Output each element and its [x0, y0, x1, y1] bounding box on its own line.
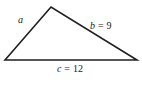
- side-label-b: b = 9: [90, 21, 112, 31]
- side-a-variable: a: [18, 14, 23, 25]
- triangle-outline: [5, 7, 137, 60]
- side-b-value: 9: [106, 20, 111, 31]
- side-c-separator: =: [62, 63, 73, 74]
- side-label-a: a: [18, 15, 23, 25]
- side-label-c: c = 12: [57, 64, 83, 74]
- triangle-figure: a b = 9 c = 12: [0, 0, 142, 90]
- side-c-value: 12: [73, 63, 83, 74]
- side-b-separator: =: [95, 20, 106, 31]
